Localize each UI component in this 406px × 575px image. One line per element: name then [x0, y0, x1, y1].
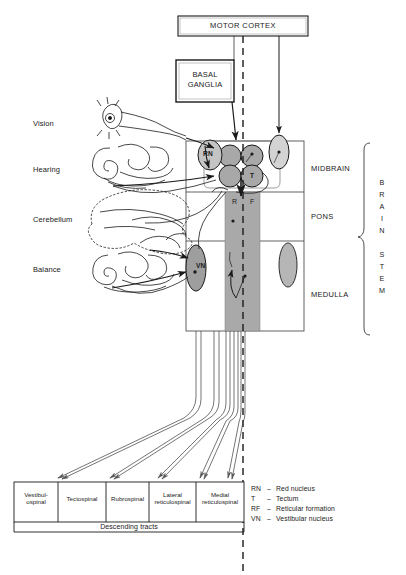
reticular-formation-column [225, 192, 260, 331]
legend-abbr-vn: VN [251, 515, 267, 522]
bracket-letter-a: A [375, 202, 389, 211]
bracket-letter-m: M [375, 286, 389, 295]
region-label-medulla: MEDULLA [311, 290, 349, 299]
tract-label-medial-reticulospinal-2: reticulospinal [197, 498, 243, 505]
eye-illustration [97, 97, 186, 140]
bracket-letter-b: B [375, 178, 389, 187]
brain-stem-bracket [358, 143, 370, 335]
region-label-pons: PONS [311, 212, 333, 221]
legend-row-t: T – Tectum [251, 495, 335, 502]
nucleus-label-rn: RN [203, 150, 213, 157]
bracket-letter-t: T [375, 262, 389, 271]
right-midbrain-oval [269, 135, 289, 169]
tract-label-rubrospinal: Rubrospinal [107, 495, 148, 502]
region-label-midbrain: MIDBRAIN [311, 164, 350, 173]
legend-term-vn: Vestibular nucleus [276, 515, 333, 522]
legend-abbr-t: T [251, 495, 267, 502]
bracket-letter-r: R [375, 190, 389, 199]
input-label-hearing: Hearing [33, 165, 60, 174]
rf-label-left: R [232, 198, 237, 205]
legend-abbr-rf: RF [251, 505, 267, 512]
tract-label-tectospinal: Tectospinal [59, 495, 105, 502]
input-label-vision: Vision [33, 119, 54, 128]
legend-term-rn: Red nucleus [276, 485, 315, 492]
rf-label-right: F [250, 198, 254, 205]
cerebellum-illustration [88, 190, 192, 254]
legend-term-t: Tectum [276, 495, 299, 502]
bracket-letter-s: S [375, 250, 389, 259]
legend-dash-t: – [267, 495, 276, 502]
bracket-letter-i: I [375, 214, 389, 223]
legend-dash-rn: – [267, 485, 276, 492]
legend-abbr-rn: RN [251, 485, 267, 492]
input-label-cerebellum: Cerebellum [33, 215, 72, 224]
nucleus-label-t: T [250, 172, 254, 179]
vestibular-apparatus-illustration [93, 252, 188, 293]
descending-tract-pathways [58, 331, 245, 479]
cochlea-illustration [92, 144, 216, 192]
brain-stem-word-brain: B R A I N [375, 178, 389, 235]
legend-dash-rf: – [267, 505, 276, 512]
legend-row-rf: RF – Reticular formation [251, 505, 335, 512]
input-label-balance: Balance [33, 265, 61, 274]
bracket-letter-e: E [375, 274, 389, 283]
tract-label-lateral-reticulospinal-2: reticulospinal [150, 498, 195, 505]
basal-ganglia-label-line1: BASAL [176, 70, 234, 80]
tract-label-vestibulospinal-2: ospinal [15, 498, 57, 505]
basal-ganglia-label-line2: GANGLIA [176, 80, 234, 90]
medulla-right-oval [279, 243, 297, 287]
nucleus-label-vn: VN [196, 262, 206, 269]
legend-dash-vn: – [267, 515, 276, 522]
diagram-canvas: MOTOR CORTEX BASAL GANGLIA Vision Hearin… [0, 0, 406, 575]
legend: RN – Red nucleus T – Tectum RF – Reticul… [251, 485, 335, 522]
legend-row-vn: VN – Vestibular nucleus [251, 515, 335, 522]
bracket-letter-n: N [375, 226, 389, 235]
legend-term-rf: Reticular formation [276, 505, 335, 512]
motor-cortex-label: MOTOR CORTEX [178, 21, 308, 30]
brain-stem-word-stem: S T E M [375, 250, 389, 295]
legend-row-rn: RN – Red nucleus [251, 485, 335, 492]
descending-tracts-caption: Descending tracts [14, 523, 244, 530]
